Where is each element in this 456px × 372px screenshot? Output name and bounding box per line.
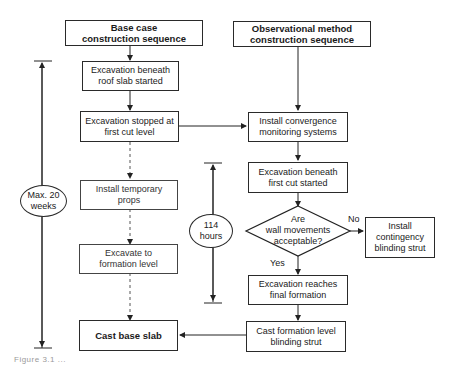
step-text: final formation [270,290,327,301]
step-text: blinding strut [270,337,321,348]
title-line: construction sequence [82,33,186,44]
step-cast-formation-blinding-strut: Cast formation level blinding strut [246,321,346,352]
duration-text: weeks [31,201,57,212]
figure-caption: Figure 3.1 ... [14,355,66,364]
step-text: Cast base slab [95,330,162,341]
step-install-temporary-props: Install temporary props [80,180,178,210]
duration-text: 114 [204,220,218,231]
step-text: Install [388,221,412,232]
base-case-title: Base case construction sequence [65,20,203,46]
step-text: blinding strut [374,243,425,254]
yes-label: Yes [270,258,285,268]
step-text: props [118,195,141,206]
step-text: contingency [376,232,424,243]
step-text: Excavation beneath [91,65,170,76]
decision-line: acceptable? [246,236,350,247]
duration-114-hours: 114 hours [189,214,233,248]
step-excavate-to-formation: Excavate to formation level [79,244,178,274]
step-text: Install convergence [259,116,337,127]
duration-max-20-weeks: Max. 20 weeks [20,185,67,217]
step-excavation-stopped: Excavation stopped at first cut level [80,111,179,142]
step-install-contingency-strut: Install contingency blinding strut [365,217,435,258]
step-text: Excavation beneath [258,167,337,178]
decision-text: Are wall movements acceptable? [246,214,350,247]
step-text: first cut level [104,127,154,138]
decision-line: wall movements [246,225,350,236]
step-text: first cut started [268,178,327,189]
duration-text: Max. 20 [27,190,59,201]
step-text: Excavation stopped at [85,116,174,127]
step-text: roof slab started [98,76,163,87]
step-cast-base-slab: Cast base slab [79,320,178,351]
step-excavation-beneath-roof-slab: Excavation beneath roof slab started [82,61,179,91]
step-text: Cast formation level [256,326,336,337]
connector-layer [0,0,456,372]
duration-text: hours [200,231,223,242]
step-excavation-reaches-final: Excavation reaches final formation [248,275,348,305]
step-text: monitoring systems [259,127,337,138]
step-excavation-beneath-first-cut: Excavation beneath first cut started [248,162,348,193]
title-line: Observational method [252,23,352,34]
step-install-convergence-monitoring: Install convergence monitoring systems [248,112,348,142]
observational-title: Observational method construction sequen… [233,21,371,47]
step-text: formation level [99,259,158,270]
step-text: Excavate to [105,248,152,259]
decision-line: Are [246,214,350,225]
title-line: Base case [111,22,157,33]
step-text: Install temporary [96,184,163,195]
title-line: construction sequence [250,34,354,45]
step-text: Excavation reaches [259,279,338,290]
no-label: No [348,214,360,224]
